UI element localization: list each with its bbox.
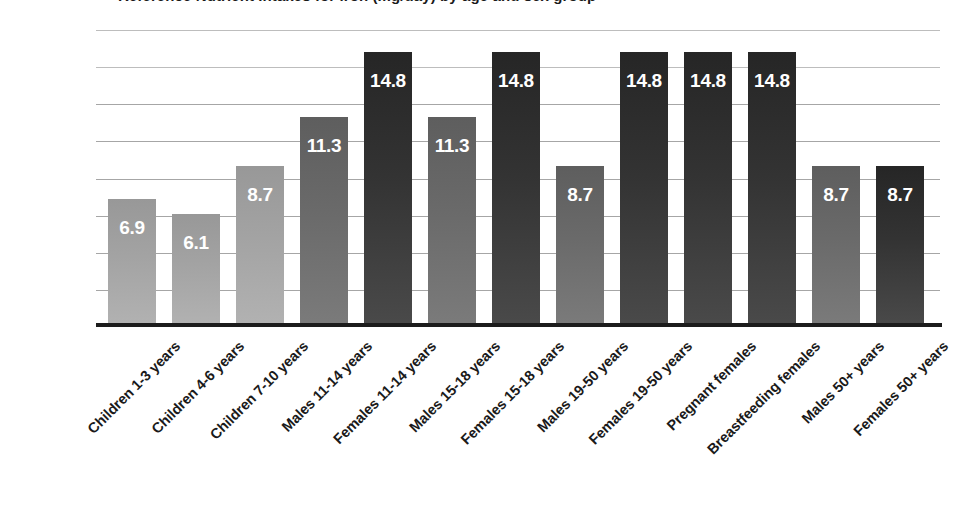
x-axis-category-labels: Children 1-3 yearsChildren 4-6 yearsChil… — [0, 0, 976, 529]
bar-chart: Reference Nutrient Intakes for iron (mg/… — [0, 0, 976, 529]
category-label: Breastfeeding females — [704, 338, 823, 457]
